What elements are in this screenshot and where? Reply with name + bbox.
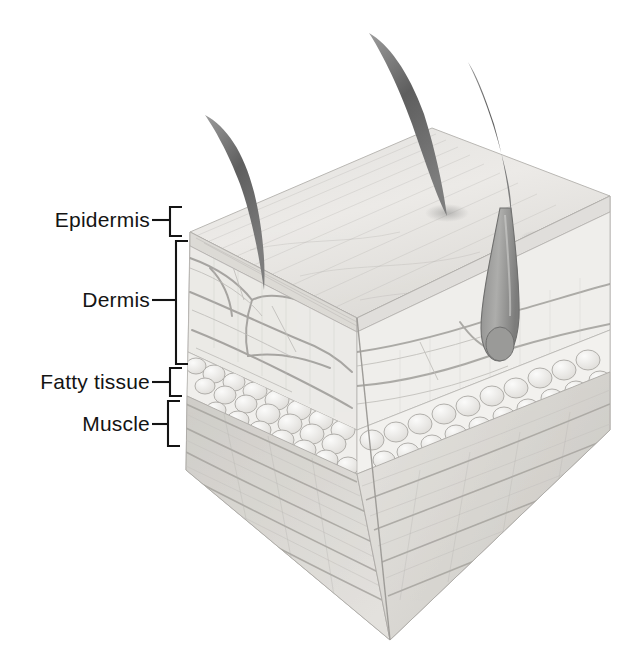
label-muscle: Muscle — [82, 412, 150, 436]
hair-pore-shadow-2 — [425, 204, 469, 222]
hair-bulb — [486, 327, 514, 361]
label-epidermis: Epidermis — [55, 208, 150, 232]
label-dermis: Dermis — [82, 288, 150, 312]
label-fatty-tissue: Fatty tissue — [40, 370, 150, 394]
skin-layers-figure: Epidermis Dermis Fatty tissue Muscle — [0, 0, 627, 667]
skin-block-illustration — [0, 0, 627, 667]
